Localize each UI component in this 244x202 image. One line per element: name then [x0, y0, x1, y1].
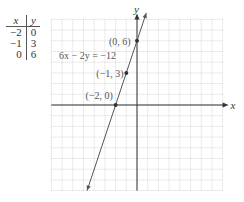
- axes: xy: [51, 3, 235, 190]
- x-axis-arrow-icon: [223, 103, 229, 108]
- x-axis-label: x: [230, 99, 236, 111]
- equation-label: 6x − 2y = −12: [59, 50, 116, 61]
- coordinate-graph: xy (0, 6)(−1, 3)(−2, 0)6x − 2y = −12: [0, 0, 244, 202]
- point-label: (0, 6): [109, 36, 131, 48]
- y-axis-label: y: [133, 3, 139, 15]
- point-marker: [135, 39, 139, 43]
- point-marker: [114, 103, 118, 107]
- figure: x y −2 0 −1 3 0 6 xy: [0, 0, 244, 202]
- point-label: (−1, 3): [96, 68, 123, 80]
- line-arrow-up-icon: [143, 13, 147, 18]
- line-arrow-down-icon: [87, 185, 91, 190]
- point-label: (−2, 0): [86, 90, 113, 102]
- point-marker: [124, 71, 128, 75]
